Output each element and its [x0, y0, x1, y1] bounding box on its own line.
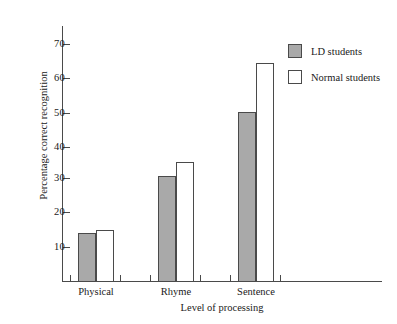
legend-label-ld-students: LD students: [311, 45, 362, 58]
bar-rhyme-ld: [158, 176, 176, 282]
bar-physical-normal: [96, 230, 114, 282]
x-tick-5: [280, 275, 281, 282]
legend-swatch-open-white-square: [288, 70, 302, 84]
bar-rhyme-normal: [176, 162, 194, 282]
x-axis-title: Level of processing: [62, 302, 382, 313]
x-tick-4: [230, 275, 231, 282]
x-tick-1: [120, 275, 121, 282]
bar-physical-ld: [78, 233, 96, 282]
legend-swatch-filled-gray-square: [288, 44, 302, 58]
y-tick-label-10: 10: [39, 242, 65, 253]
y-axis-title: Percentage correct recognition: [38, 41, 49, 231]
bar-sentence-ld: [238, 112, 256, 282]
x-tick-label-sentence: Sentence: [201, 286, 311, 298]
x-tick-2: [150, 275, 151, 282]
bar-sentence-normal: [256, 63, 274, 282]
x-tick-3: [200, 275, 201, 282]
bar-chart: 70 60 50 40 30 20 10 Physical Rhyme Sent…: [0, 0, 397, 324]
x-tick-0: [70, 275, 71, 282]
legend-label-normal-students: Normal students: [311, 71, 380, 84]
